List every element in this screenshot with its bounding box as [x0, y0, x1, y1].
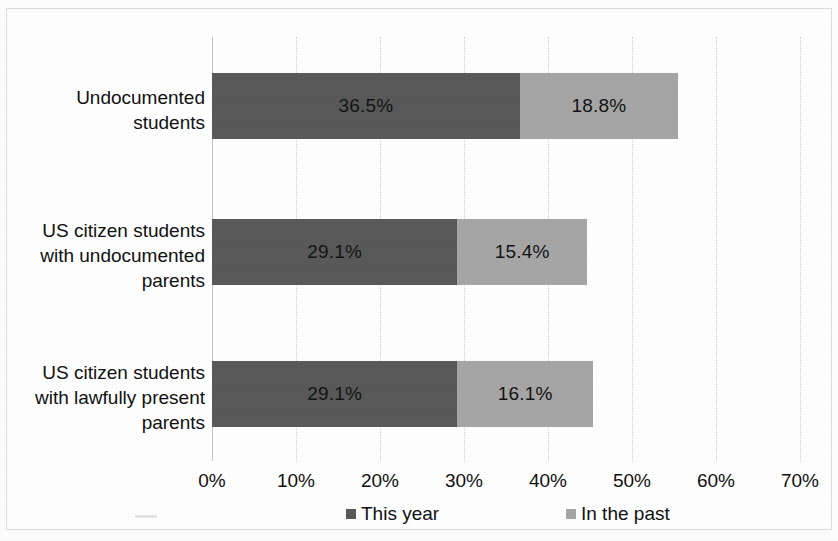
legend-item-in-the-past[interactable]: In the past — [566, 503, 670, 525]
category-label-undocumented-students: Undocumented students — [15, 85, 205, 135]
category-label-line: US citizen students — [15, 218, 205, 243]
category-label-line: parents — [15, 410, 205, 435]
legend-swatch-icon — [566, 509, 576, 519]
bar-segment-in-the-past[interactable]: 16.1% — [457, 361, 593, 427]
category-label-us-citizen-lawfully-present-parents: US citizen students with lawfully presen… — [15, 360, 205, 435]
category-label-line: with lawfully present — [15, 385, 205, 410]
x-tick-label: 0% — [172, 470, 252, 492]
bar-segment-in-the-past[interactable]: 15.4% — [457, 219, 587, 285]
bar-value-label: 15.4% — [495, 241, 550, 263]
chart-frame: 36.5% 18.8% 29.1% 15.4% 29.1% — [6, 8, 832, 530]
x-tick-label: 70% — [760, 470, 838, 492]
bar-value-label: 18.8% — [571, 95, 626, 117]
value-axis: 0% 10% 20% 30% 40% 50% 60% 70% — [212, 470, 802, 496]
scan-artifact — [135, 515, 157, 518]
category-label-line: US citizen students — [15, 360, 205, 385]
x-tick-label: 60% — [676, 470, 756, 492]
bar-segment-this-year[interactable]: 29.1% — [212, 361, 457, 427]
x-tick-label: 50% — [592, 470, 672, 492]
bar-value-label: 29.1% — [307, 383, 362, 405]
legend-item-this-year[interactable]: This year — [346, 503, 439, 525]
category-label-line: parents — [15, 268, 205, 293]
legend-swatch-icon — [346, 509, 356, 519]
legend: This year In the past — [212, 503, 802, 529]
x-tick-label: 10% — [256, 470, 336, 492]
category-label-line: Undocumented — [15, 85, 205, 110]
legend-label: In the past — [581, 503, 670, 525]
category-label-us-citizen-undocumented-parents: US citizen students with undocumented pa… — [15, 218, 205, 293]
chart-root: 36.5% 18.8% 29.1% 15.4% 29.1% — [0, 0, 838, 541]
category-label-line: students — [15, 110, 205, 135]
bar-segment-this-year[interactable]: 36.5% — [212, 73, 520, 139]
legend-label: This year — [361, 503, 439, 525]
x-tick-label: 40% — [508, 470, 588, 492]
gridline-70 — [800, 37, 801, 461]
bar-value-label: 29.1% — [307, 241, 362, 263]
bar-segment-in-the-past[interactable]: 18.8% — [520, 73, 678, 139]
bar-value-label: 36.5% — [338, 95, 393, 117]
x-tick-label: 30% — [424, 470, 504, 492]
bar-value-label: 16.1% — [498, 383, 553, 405]
category-label-line: with undocumented — [15, 243, 205, 268]
plot-area: 36.5% 18.8% 29.1% 15.4% 29.1% — [212, 37, 802, 461]
category-axis: Undocumented students US citizen student… — [15, 37, 205, 461]
x-tick-label: 20% — [340, 470, 420, 492]
gridline-60 — [716, 37, 717, 461]
bar-segment-this-year[interactable]: 29.1% — [212, 219, 457, 285]
